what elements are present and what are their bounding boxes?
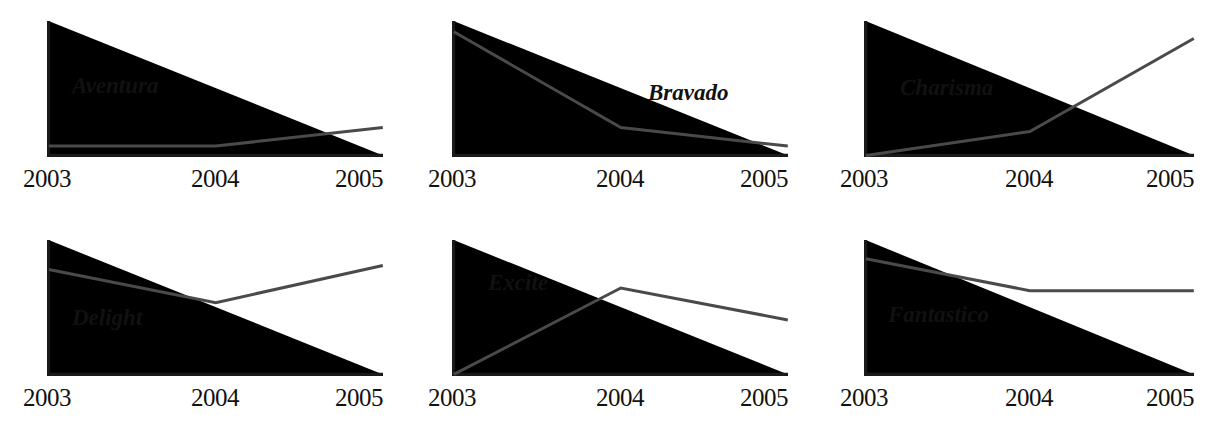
x-tick-start-delight: 2003: [23, 385, 71, 410]
chart-panel-delight: Delight 2003 2004 2005: [47, 240, 383, 376]
x-tick-start-excite: 2003: [428, 385, 476, 410]
x-tick-middle-delight: 2004: [171, 385, 259, 410]
series-label-charisma: Charisma: [900, 76, 993, 99]
plot-area-excite: [452, 240, 788, 376]
x-tick-middle-aventura: 2004: [171, 166, 259, 191]
x-tick-start-aventura: 2003: [23, 166, 71, 191]
x-tick-end-aventura: 2005: [295, 166, 383, 191]
x-tick-middle-bravado: 2004: [576, 166, 664, 191]
x-tick-middle-charisma: 2004: [985, 166, 1073, 191]
series-label-aventura: Aventura: [72, 74, 158, 97]
x-tick-start-bravado: 2003: [428, 166, 476, 191]
x-tick-end-fantastico: 2005: [1106, 385, 1194, 410]
x-tick-middle-excite: 2004: [576, 385, 664, 410]
chart-panel-bravado: Bravado 2003 2004 2005: [452, 21, 788, 157]
x-tick-end-charisma: 2005: [1106, 166, 1194, 191]
axis-bravado: [454, 21, 788, 155]
series-label-delight: Delight: [72, 306, 142, 329]
series-label-fantastico: Fantastico: [888, 303, 989, 326]
x-tick-start-charisma: 2003: [840, 166, 888, 191]
x-tick-middle-fantastico: 2004: [985, 385, 1073, 410]
x-tick-start-fantastico: 2003: [840, 385, 888, 410]
chart-panel-aventura: Aventura 2003 2004 2005: [47, 21, 383, 157]
chart-panel-excite: Excite 2003 2004 2005: [452, 240, 788, 376]
chart-panel-fantastico: Fantastico 2003 2004 2005: [864, 240, 1194, 376]
chart-panel-charisma: Charisma 2003 2004 2005: [864, 21, 1194, 157]
plot-area-bravado: [452, 21, 788, 157]
series-label-excite: Excite: [488, 271, 548, 294]
series-label-bravado: Bravado: [648, 81, 729, 104]
small-multiples-chart-grid: Aventura 2003 2004 2005 Bravado 2003 200…: [0, 0, 1231, 425]
x-tick-end-bravado: 2005: [700, 166, 788, 191]
x-tick-end-delight: 2005: [295, 385, 383, 410]
axis-excite: [454, 240, 788, 374]
x-tick-end-excite: 2005: [700, 385, 788, 410]
